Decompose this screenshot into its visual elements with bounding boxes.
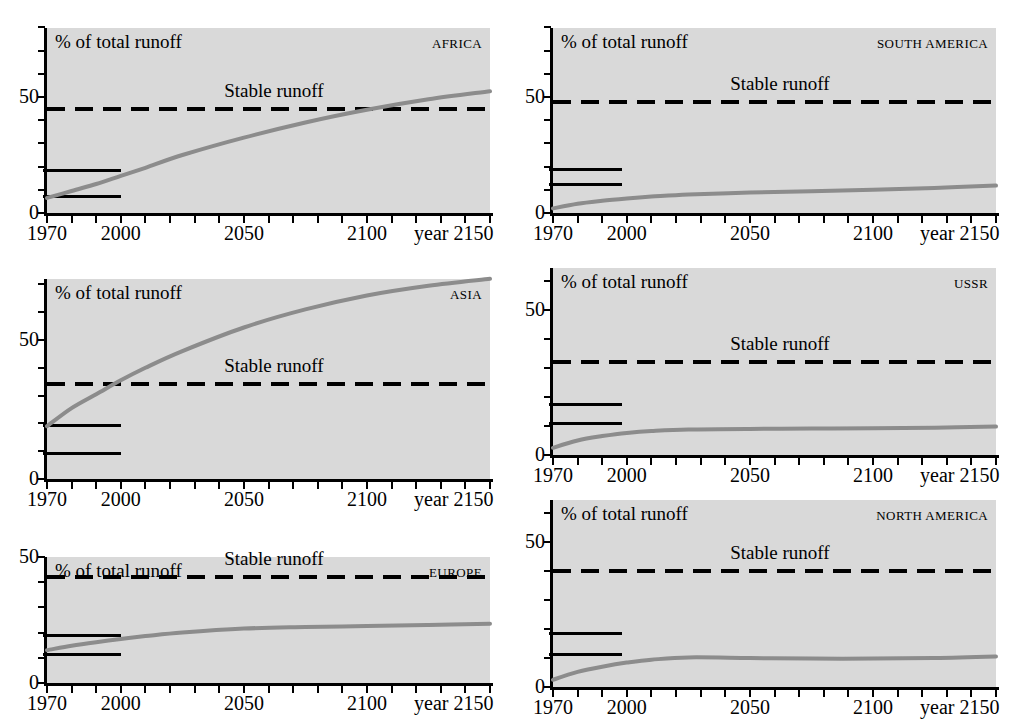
panel-north-america: 0501970200020502100year 2150% of total r… xyxy=(0,0,1012,725)
projection-curve-north-america xyxy=(0,0,1012,725)
